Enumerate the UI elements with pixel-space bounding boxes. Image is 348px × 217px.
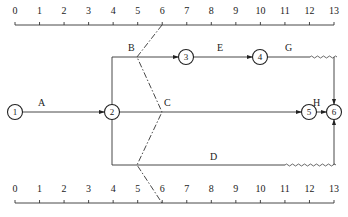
top-tick-label-6: 6 [160, 5, 165, 16]
top-tick-label-1: 1 [37, 5, 42, 16]
node-5: 5 [302, 105, 317, 120]
top-tick-label-4: 4 [111, 5, 116, 16]
activity-g-label: G [285, 42, 292, 53]
bottom-time-scale: 012345678910111213 [13, 183, 340, 203]
bottom-tick-label-0: 0 [13, 183, 18, 194]
top-tick-label-13: 13 [329, 5, 339, 16]
top-tick-label-11: 11 [280, 5, 290, 16]
node-5-label: 5 [307, 107, 312, 117]
top-tick-label-10: 10 [255, 5, 265, 16]
bottom-tick-label-11: 11 [280, 183, 290, 194]
top-tick-label-8: 8 [209, 5, 214, 16]
bottom-tick-label-2: 2 [62, 183, 67, 194]
bottom-tick-label-4: 4 [111, 183, 116, 194]
top-tick-label-9: 9 [233, 5, 238, 16]
top-tick-label-2: 2 [62, 5, 67, 16]
activity-b-label: B [128, 42, 135, 53]
bottom-tick-label-9: 9 [233, 183, 238, 194]
activity-d: D [112, 119, 336, 166]
bottom-tick-label-10: 10 [255, 183, 265, 194]
activity-a: A [22, 97, 105, 114]
top-time-scale: 012345678910111213 [13, 5, 340, 25]
free-float-wavy-d [285, 164, 336, 166]
node-6: 6 [327, 105, 342, 120]
node-4-label: 4 [258, 52, 263, 62]
bottom-tick-label-1: 1 [37, 183, 42, 194]
activity-c-label: C [164, 97, 171, 108]
activity-e-label: E [217, 42, 223, 53]
node-6-label: 6 [332, 107, 337, 117]
top-tick-label-0: 0 [13, 5, 18, 16]
activity-e: E [193, 42, 253, 59]
bottom-tick-label-6: 6 [160, 183, 165, 194]
activity-a-label: A [38, 97, 46, 108]
activity-d-label: D [210, 151, 217, 162]
bottom-tick-label-5: 5 [135, 183, 140, 194]
bottom-tick-label-3: 3 [86, 183, 91, 194]
node-1-label: 1 [13, 107, 18, 117]
node-3-label: 3 [184, 52, 189, 62]
activity-c: C [119, 97, 302, 114]
bottom-tick-label-7: 7 [184, 183, 189, 194]
progress-check-line [137, 25, 162, 203]
bottom-tick-label-12: 12 [304, 183, 314, 194]
top-tick-label-7: 7 [184, 5, 189, 16]
bottom-tick-label-13: 13 [329, 183, 339, 194]
top-tick-label-3: 3 [86, 5, 91, 16]
top-tick-label-12: 12 [304, 5, 314, 16]
node-2-label: 2 [110, 107, 115, 117]
node-1: 1 [8, 105, 23, 120]
node-3: 3 [179, 50, 194, 65]
activity-g: G [267, 42, 337, 105]
bottom-tick-label-8: 8 [209, 183, 214, 194]
top-tick-label-5: 5 [135, 5, 140, 16]
free-float-wavy-g [310, 56, 337, 58]
network-diagram: 012345678910111213 012345678910111213 A … [0, 0, 348, 217]
node-4: 4 [253, 50, 268, 65]
node-2: 2 [105, 105, 120, 120]
activity-b: B [112, 42, 179, 105]
